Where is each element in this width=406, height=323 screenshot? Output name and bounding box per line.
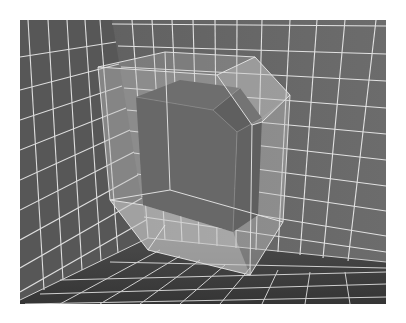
render-scene: [0, 0, 406, 323]
